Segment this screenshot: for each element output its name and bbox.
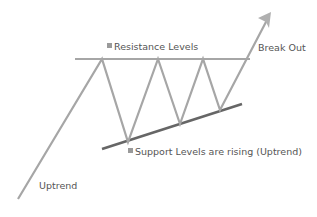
resistance-label-text: Resistance Levels <box>114 41 198 52</box>
support-label-text: Support Levels are rising (Uptrend) <box>135 146 302 157</box>
bullet-icon <box>107 43 112 48</box>
bullet-icon <box>128 148 133 153</box>
breakout-label: Break Out <box>258 42 306 53</box>
uptrend-label: Uptrend <box>39 180 77 191</box>
ascending-triangle-diagram: Resistance Levels Break Out Support Leve… <box>0 0 317 217</box>
support-label: Support Levels are rising (Uptrend) <box>128 146 302 157</box>
resistance-label: Resistance Levels <box>107 41 198 52</box>
